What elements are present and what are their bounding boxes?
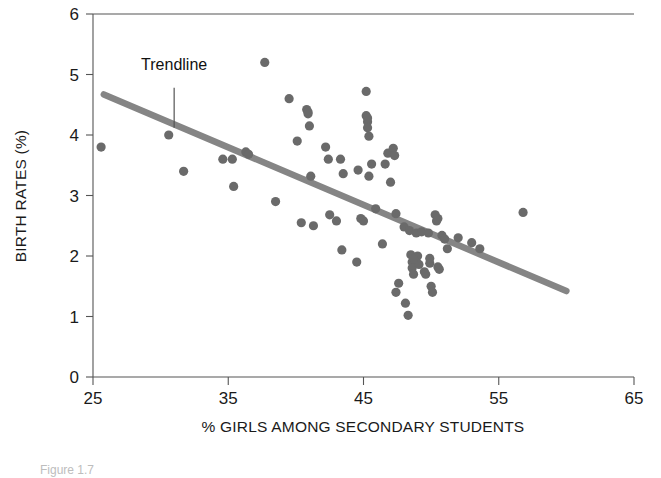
data-point [359,216,368,225]
data-point [378,239,387,248]
data-point [362,87,371,96]
data-point [244,150,253,159]
y-tick-label: 0 [70,368,79,387]
data-point [381,159,390,168]
y-tick-label: 6 [70,5,79,24]
data-point [164,130,173,139]
data-point [391,288,400,297]
data-point [363,123,372,132]
y-tick-label: 5 [70,66,79,85]
data-point [424,228,433,237]
data-point [386,178,395,187]
data-point [401,299,410,308]
data-point [324,155,333,164]
scatter-chart: 0123456 2535455565 BIRTH RATES (%) % GIR… [0,0,661,478]
data-point [337,245,346,254]
y-tick-label: 4 [70,126,79,145]
data-point [518,208,527,217]
data-point [390,151,399,160]
data-point [97,143,106,152]
data-point [285,94,294,103]
data-point [428,288,437,297]
data-point [228,155,237,164]
y-axis-title: BIRTH RATES (%) [12,130,29,262]
figure-caption: Figure 1.7 [40,463,94,477]
data-point [367,159,376,168]
data-point [309,221,318,230]
data-point [371,204,380,213]
data-point [421,270,430,279]
x-axis-title: % GIRLS AMONG SECONDARY STUDENTS [202,418,525,435]
data-point [409,254,418,263]
data-point [339,169,348,178]
data-point [303,107,312,116]
x-tick-label: 45 [354,389,373,408]
data-point [391,209,400,218]
y-axis-ticks: 0123456 [70,5,93,387]
data-point [475,244,484,253]
data-point [425,254,434,263]
data-point [454,233,463,242]
x-axis-ticks: 2535455565 [84,377,644,408]
data-point [218,155,227,164]
data-point [435,265,444,274]
data-point [306,172,315,181]
x-tick-label: 65 [625,389,644,408]
data-point [271,197,280,206]
x-tick-label: 25 [84,389,103,408]
data-point [404,311,413,320]
data-points-layer [97,58,528,320]
trendline-annotation-label: Trendline [141,56,207,73]
trendline [104,94,567,291]
data-point [440,234,449,243]
data-point [443,244,452,253]
y-tick-label: 2 [70,247,79,266]
data-point [293,136,302,145]
data-point [297,218,306,227]
x-tick-label: 35 [219,389,238,408]
data-point [352,257,361,266]
data-point [229,182,238,191]
data-point [409,270,418,279]
data-point [305,121,314,130]
data-point [467,238,476,247]
data-point [364,132,373,141]
data-point [336,155,345,164]
y-tick-label: 3 [70,187,79,206]
data-point [394,279,403,288]
data-point [364,172,373,181]
y-tick-label: 1 [70,308,79,327]
figure-container: 0123456 2535455565 BIRTH RATES (%) % GIR… [0,0,661,478]
data-point [321,143,330,152]
x-tick-label: 55 [489,389,508,408]
data-point [260,58,269,67]
data-point [363,113,372,122]
data-point [433,214,442,223]
data-point [179,167,188,176]
data-point [353,165,362,174]
data-point [332,216,341,225]
